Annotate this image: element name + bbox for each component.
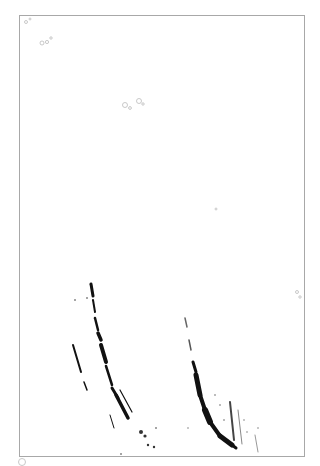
scan-corner-mark [18, 458, 26, 466]
scanned-strokes [0, 0, 320, 466]
faint-specks-top [25, 18, 302, 298]
left-stroke-group [73, 284, 132, 428]
left-stroke-speckles [74, 297, 157, 455]
right-stroke-speckles [187, 394, 258, 432]
